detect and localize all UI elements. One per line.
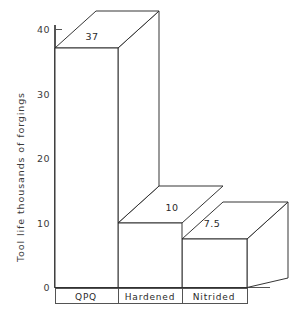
y-tick-label: 20 [37,153,50,164]
chart-container: Tool life thousands of forgings 40 30 20… [0,0,306,323]
y-tick-label: 0 [43,282,50,293]
category-label-qpq: QPQ [75,292,97,302]
category-label-hardened: Hardened [125,292,175,302]
bar-chart: Tool life thousands of forgings 40 30 20… [0,0,306,323]
bar-value-label: 10 [166,202,179,213]
y-tick-label: 40 [37,24,50,35]
category-label-row: QPQ Hardened Nitrided [55,288,247,303]
bar-nitrided[interactable]: 7.5 [182,202,288,288]
y-tick-40: 40 [37,24,62,35]
bar-value-label: 37 [86,31,99,42]
y-tick-label: 30 [37,89,50,100]
category-label-nitrided: Nitrided [193,292,235,302]
bar-front-face [55,48,118,288]
bar-front-face [182,239,247,288]
bar-front-face [118,223,182,288]
y-tick-label: 10 [37,218,50,229]
y-axis-title: Tool life thousands of forgings [15,92,26,263]
bar-value-label: 7.5 [204,218,220,229]
